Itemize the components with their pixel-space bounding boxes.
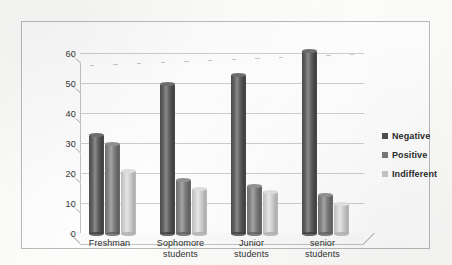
bar-bottom-cap — [105, 232, 120, 236]
bar-top-cap — [247, 184, 262, 188]
x-axis-label-line: Junior — [216, 238, 287, 249]
bar-series-container — [80, 54, 364, 234]
chart-legend: NegativePositiveIndifferent — [382, 126, 450, 183]
bar-top-cap — [121, 169, 136, 173]
y-axis-tick-label: 30 — [66, 139, 76, 149]
bar-group — [293, 54, 364, 234]
bar-bottom-cap — [302, 232, 317, 236]
x-axis-label-line: Freshman — [74, 238, 145, 249]
bar[interactable] — [334, 204, 349, 234]
bar-group — [80, 54, 151, 234]
y-axis-tick-label: 40 — [66, 109, 76, 119]
bar-top-cap — [89, 133, 104, 137]
bar-bottom-cap — [121, 232, 136, 236]
x-axis-label-line: students — [216, 249, 287, 260]
bar-body — [247, 186, 262, 234]
legend-item-label: Indifferent — [392, 169, 437, 179]
bar-body — [176, 180, 191, 234]
legend-item[interactable]: Positive — [382, 145, 450, 164]
bar[interactable] — [121, 171, 136, 234]
y-axis-tick-label: 50 — [66, 79, 76, 89]
bar-body — [192, 189, 207, 234]
bar-top-cap — [105, 142, 120, 146]
bar-bottom-cap — [334, 232, 349, 236]
bar-top-cap — [318, 193, 333, 197]
legend-item[interactable]: Negative — [382, 126, 450, 145]
bar[interactable] — [318, 195, 333, 234]
bar-top-cap — [231, 73, 246, 77]
bar[interactable] — [231, 75, 246, 234]
bar[interactable] — [89, 135, 104, 234]
bar-body — [318, 195, 333, 234]
bar-group — [151, 54, 222, 234]
y-axis-tick-label: 10 — [66, 199, 76, 209]
bar-group — [222, 54, 293, 234]
y-axis: 0102030405060 — [46, 54, 76, 234]
bar-body — [263, 192, 278, 234]
x-axis-label-line: Sophomore — [145, 238, 216, 249]
bar-bottom-cap — [318, 232, 333, 236]
bar-top-cap — [302, 49, 317, 53]
x-axis: FreshmanSophomorestudentsJuniorstudentss… — [80, 238, 364, 265]
legend-item[interactable]: Indifferent — [382, 164, 450, 183]
x-axis-label-line: students — [287, 249, 358, 260]
x-axis-category-label: Freshman — [74, 238, 145, 249]
chart-frame: 0102030405060 FreshmanSophomorestudentsJ… — [21, 21, 430, 249]
legend-item-label: Positive — [392, 150, 427, 160]
bar-bottom-cap — [263, 232, 278, 236]
y-axis-tick-label: 60 — [66, 49, 76, 59]
bar-body — [334, 204, 349, 234]
bar-bottom-cap — [89, 232, 104, 236]
bar-body — [231, 75, 246, 234]
bar[interactable] — [302, 51, 317, 234]
bar-top-cap — [192, 187, 207, 191]
legend-item-label: Negative — [392, 131, 430, 141]
bar-bottom-cap — [247, 232, 262, 236]
bar-top-cap — [334, 202, 349, 206]
scanned-page: 0102030405060 FreshmanSophomorestudentsJ… — [0, 0, 452, 265]
bar-top-cap — [263, 190, 278, 194]
bar-bottom-cap — [231, 232, 246, 236]
bar-top-cap — [160, 82, 175, 86]
bar-body — [302, 51, 317, 234]
legend-swatch-icon — [382, 133, 388, 139]
x-axis-category-label: Sophomorestudents — [145, 238, 216, 260]
bar[interactable] — [105, 144, 120, 234]
x-axis-label-line: students — [145, 249, 216, 260]
bar-bottom-cap — [176, 232, 191, 236]
bar-body — [105, 144, 120, 234]
x-axis-category-label: seniorstudents — [287, 238, 358, 260]
bar-body — [160, 84, 175, 234]
bar[interactable] — [192, 189, 207, 234]
bar-bottom-cap — [160, 232, 175, 236]
chart-floor-right-edge — [363, 233, 375, 245]
bar-top-cap — [176, 178, 191, 182]
bar-bottom-cap — [192, 232, 207, 236]
y-axis-tick-label: 20 — [66, 169, 76, 179]
legend-swatch-icon — [382, 171, 388, 177]
bar-body — [89, 135, 104, 234]
x-axis-label-line: senior — [287, 238, 358, 249]
bar-body — [121, 171, 136, 234]
bar[interactable] — [160, 84, 175, 234]
legend-swatch-icon — [382, 152, 388, 158]
bar[interactable] — [247, 186, 262, 234]
x-axis-category-label: Juniorstudents — [216, 238, 287, 260]
bar[interactable] — [176, 180, 191, 234]
bar[interactable] — [263, 192, 278, 234]
